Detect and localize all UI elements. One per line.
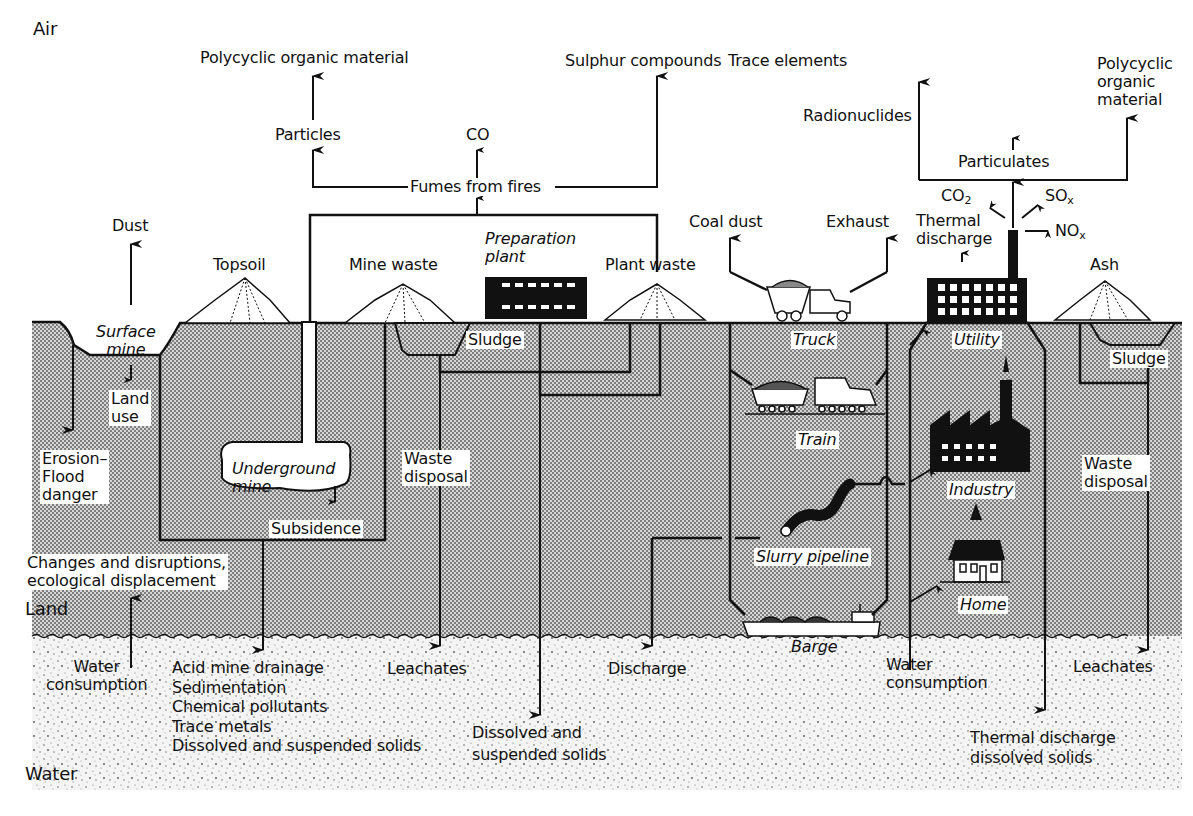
label-exhaust: Exhaust <box>826 213 889 231</box>
label-fumes-from-fires: Fumes from fires <box>408 178 543 196</box>
label-mine-waste: Mine waste <box>349 256 438 274</box>
label-topsoil: Topsoil <box>213 256 266 274</box>
label-subsidence: Subsidence <box>269 520 363 538</box>
sox-text: SO <box>1045 186 1067 205</box>
label-sulphur-compounds: Sulphur compounds <box>565 52 721 70</box>
label-discharge: Discharge <box>608 660 686 678</box>
label-co: CO <box>466 126 489 144</box>
label-water-consumption-left: Water consumption <box>46 658 147 694</box>
label-preparation-plant: Preparation plant <box>485 230 576 266</box>
ash-mound <box>1055 281 1150 320</box>
nox-text: NO <box>1055 221 1079 240</box>
label-slurry-pipeline: Slurry pipeline <box>754 548 871 566</box>
label-waste-disposal-right: Waste disposal <box>1082 455 1150 491</box>
label-radionuclides: Radionuclides <box>803 107 912 125</box>
truck-icon <box>767 281 850 322</box>
label-thermal-discharge-air: Thermal discharge <box>916 212 992 248</box>
zone-label-land: Land <box>25 600 68 618</box>
topsoil-mound <box>185 278 290 323</box>
label-sludge-left: Sludge <box>466 331 524 349</box>
label-erosion-flood: Erosion– Flood danger <box>40 450 109 504</box>
label-leachates-right: Leachates <box>1073 658 1153 676</box>
truck-link-right <box>850 272 887 292</box>
label-waste-disposal-left: Waste disposal <box>402 450 470 486</box>
label-coal-dust: Coal dust <box>689 213 762 231</box>
label-trace-elements: Trace elements <box>728 52 847 70</box>
label-ash: Ash <box>1090 256 1119 274</box>
nox-subscript: x <box>1079 229 1085 242</box>
label-industry: Industry <box>947 481 1015 499</box>
label-plant-waste: Plant waste <box>605 256 696 274</box>
label-thermal-dissolved: Thermal discharge dissolved solids <box>970 728 1116 768</box>
co2-subscript: 2 <box>964 194 971 207</box>
label-train: Train <box>796 431 839 449</box>
label-acid-mine-drainage-list: Acid mine drainage Sedimentation Chemica… <box>172 658 421 756</box>
label-sludge-right: Sludge <box>1110 350 1168 368</box>
label-land-use: Land use <box>109 390 151 426</box>
label-sox: SOx <box>1045 187 1074 210</box>
co2-text: CO <box>941 186 964 205</box>
sludge-pit-right <box>1090 323 1175 345</box>
label-particles: Particles <box>275 126 341 144</box>
zone-label-air: Air <box>33 20 57 38</box>
label-dissolved-suspended: Dissolved and suspended solids <box>472 722 607 766</box>
label-changes-disruptions: Changes and disruptions, ecological disp… <box>25 554 228 590</box>
label-barge: Barge <box>791 638 837 656</box>
label-utility: Utility <box>952 331 1002 349</box>
label-surface-mine: Surface mine <box>96 323 156 359</box>
label-co2: CO2 <box>941 187 971 210</box>
sox-subscript: x <box>1067 194 1073 207</box>
label-polycyclic-left: Polycyclic organic material <box>200 49 409 67</box>
label-underground-mine: Underground mine <box>232 460 335 496</box>
mine-waste-mound <box>345 284 455 323</box>
truck-link-left <box>730 272 767 290</box>
label-water-consumption-right: Water consumption <box>886 656 987 692</box>
label-particulates: Particulates <box>958 153 1049 171</box>
label-polycyclic-right: Polycyclic organic material <box>1097 55 1173 109</box>
preparation-plant-building <box>485 277 587 319</box>
label-home: Home <box>958 596 1008 614</box>
label-dust: Dust <box>112 217 148 235</box>
plant-waste-mound <box>605 284 705 320</box>
label-nox: NOx <box>1055 222 1085 245</box>
label-leachates-left: Leachates <box>387 660 467 678</box>
label-truck: Truck <box>791 331 837 349</box>
zone-label-water: Water <box>25 765 77 783</box>
